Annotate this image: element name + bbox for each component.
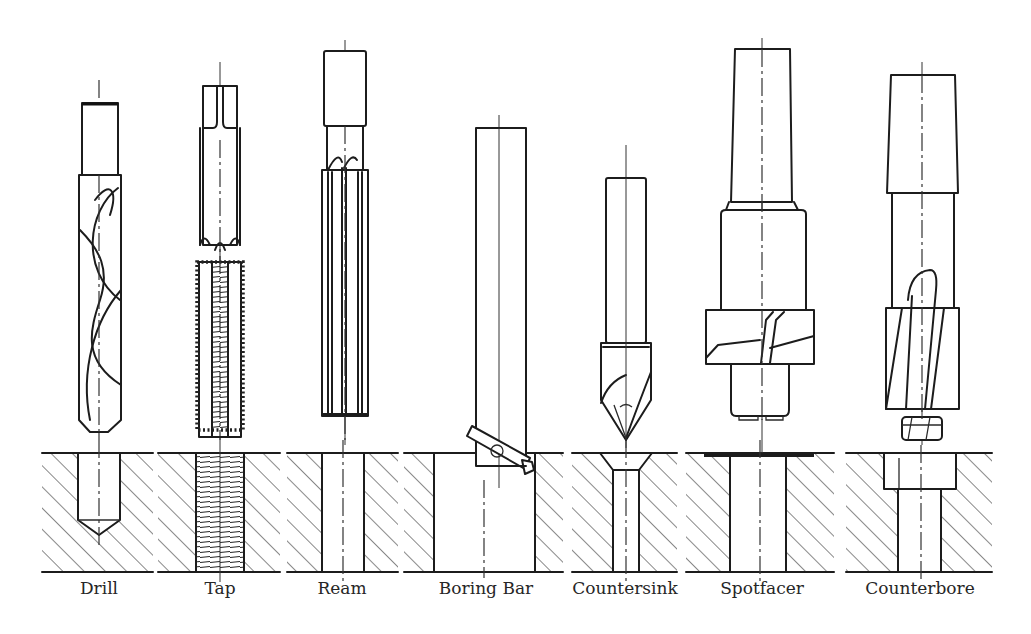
label-boring-bar: Boring Bar xyxy=(439,578,533,598)
diagram-canvas xyxy=(0,0,1031,634)
tools xyxy=(79,38,959,488)
tap-tool xyxy=(197,62,243,440)
workpiece-boring-bar xyxy=(404,453,563,578)
countersink-tool xyxy=(601,145,651,448)
workpiece-countersink xyxy=(572,440,677,582)
label-tap: Tap xyxy=(204,578,235,598)
label-counterbore: Counterbore xyxy=(865,578,974,598)
label-spotfacer: Spotfacer xyxy=(720,578,804,598)
spotfacer-tool xyxy=(706,38,814,453)
drill-tool xyxy=(79,80,121,440)
counterbore-tool xyxy=(886,62,959,445)
workpiece-drill xyxy=(42,440,153,572)
label-ream: Ream xyxy=(317,578,366,598)
workpiece-spotfacer xyxy=(686,440,834,582)
label-countersink: Countersink xyxy=(572,578,678,598)
workpiece-counterbore xyxy=(846,445,992,582)
boring-bar-tool xyxy=(467,115,534,488)
label-drill: Drill xyxy=(80,578,118,598)
workpiece-tap xyxy=(158,438,280,582)
workpiece-ream xyxy=(287,440,398,582)
hole-making-tools-diagram: Drill Tap Ream Boring Bar Countersink Sp… xyxy=(0,0,1031,634)
ream-tool xyxy=(322,40,368,445)
